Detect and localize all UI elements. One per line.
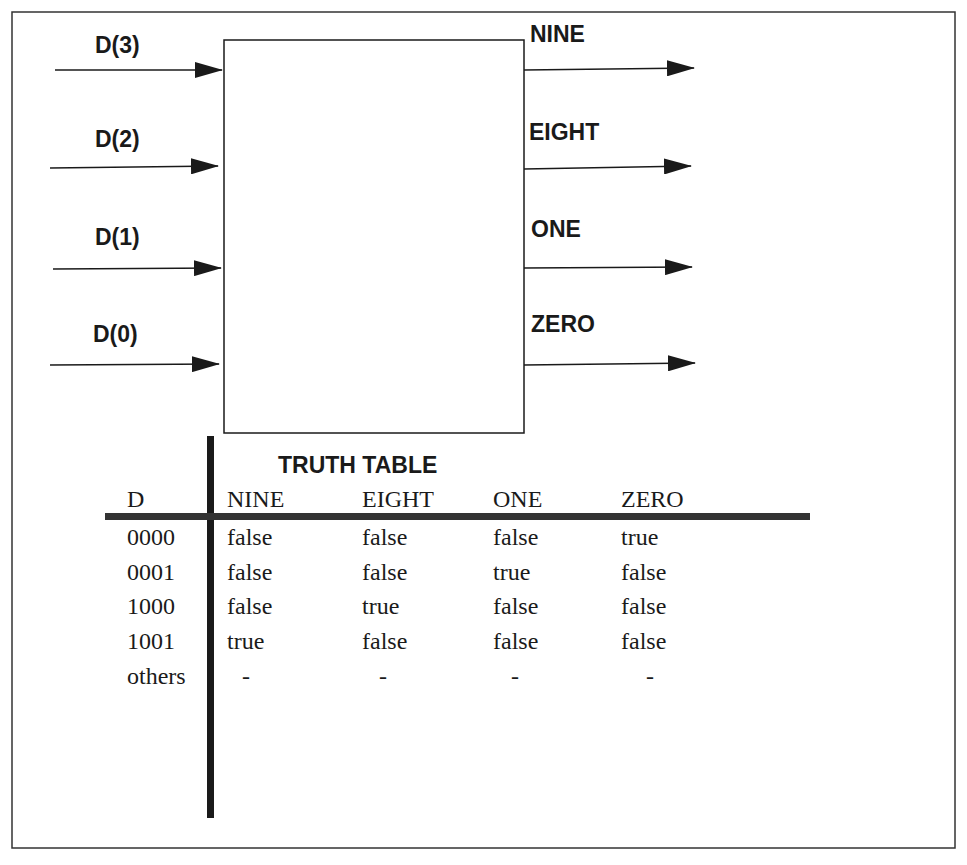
component-block bbox=[224, 40, 524, 433]
input-arrow bbox=[50, 166, 218, 168]
input-d3: D(3) bbox=[55, 32, 222, 70]
input-label: D(0) bbox=[93, 321, 138, 347]
header-eight: EIGHT bbox=[362, 486, 434, 512]
cell-d: 0001 bbox=[127, 559, 175, 585]
table-vertical-rule bbox=[207, 436, 214, 818]
input-label: D(1) bbox=[95, 224, 140, 250]
input-d2: D(2) bbox=[50, 126, 218, 168]
cell-eight: false bbox=[362, 628, 407, 654]
output-label: NINE bbox=[530, 21, 585, 47]
output-label: ONE bbox=[531, 216, 581, 242]
cell-zero: false bbox=[621, 628, 666, 654]
cell-nine: - bbox=[242, 663, 250, 689]
input-label: D(2) bbox=[95, 126, 140, 152]
cell-eight: false bbox=[362, 559, 407, 585]
cell-zero: false bbox=[621, 559, 666, 585]
output-label: EIGHT bbox=[529, 119, 599, 145]
cell-nine: false bbox=[227, 559, 272, 585]
cell-d: 1000 bbox=[127, 593, 175, 619]
output-zero: ZERO bbox=[524, 311, 695, 365]
cell-zero: true bbox=[621, 524, 658, 550]
cell-d: 0000 bbox=[127, 524, 175, 550]
table-horizontal-rule bbox=[105, 513, 810, 520]
cell-one: false bbox=[493, 524, 538, 550]
cell-one: false bbox=[493, 628, 538, 654]
cell-eight: true bbox=[362, 593, 399, 619]
cell-zero: false bbox=[621, 593, 666, 619]
header-d: D bbox=[127, 486, 144, 512]
input-label: D(3) bbox=[95, 32, 140, 58]
cell-zero: - bbox=[646, 663, 654, 689]
input-d1: D(1) bbox=[53, 224, 221, 269]
cell-eight: false bbox=[362, 524, 407, 550]
output-nine: NINE bbox=[524, 21, 694, 70]
header-zero: ZERO bbox=[621, 486, 684, 512]
truth-table-title: TRUTH TABLE bbox=[278, 452, 437, 478]
diagram-canvas: D(3) D(2) D(1) D(0) NINE EIGHT ONE ZERO … bbox=[0, 0, 967, 865]
cell-one: true bbox=[493, 559, 530, 585]
truth-table: TRUTH TABLE D NINE EIGHT ONE ZERO 0000 f… bbox=[105, 436, 810, 818]
cell-nine: true bbox=[227, 628, 264, 654]
input-d0: D(0) bbox=[50, 321, 219, 365]
cell-d: 1001 bbox=[127, 628, 175, 654]
output-arrow bbox=[524, 166, 691, 169]
outer-frame bbox=[12, 12, 955, 848]
cell-nine: false bbox=[227, 593, 272, 619]
header-nine: NINE bbox=[227, 486, 284, 512]
output-one: ONE bbox=[524, 216, 692, 268]
cell-nine: false bbox=[227, 524, 272, 550]
input-arrow bbox=[53, 268, 221, 269]
output-arrow bbox=[524, 68, 694, 70]
output-arrow bbox=[524, 267, 692, 268]
cell-one: false bbox=[493, 593, 538, 619]
output-arrow bbox=[524, 363, 695, 365]
table-row: others - - - - bbox=[127, 663, 654, 689]
cell-one: - bbox=[511, 663, 519, 689]
output-label: ZERO bbox=[531, 311, 595, 337]
input-arrow bbox=[50, 364, 219, 365]
cell-d: others bbox=[127, 663, 186, 689]
table-row: 0000 false false false true bbox=[127, 524, 658, 550]
cell-eight: - bbox=[379, 663, 387, 689]
output-eight: EIGHT bbox=[524, 119, 691, 169]
header-one: ONE bbox=[493, 486, 542, 512]
